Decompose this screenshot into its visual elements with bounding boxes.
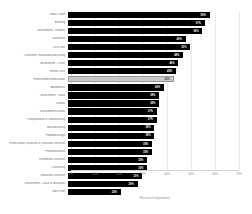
bar-row: Non-Profit22% <box>0 188 252 196</box>
bar-container: 36% <box>68 124 252 132</box>
x-tick-label: 20% <box>116 172 122 176</box>
bar-container: 29% <box>68 180 252 188</box>
bar-value-label: 29% <box>129 182 134 188</box>
bar-row: Health Care45% <box>0 67 252 75</box>
category-label: Professional, Scientific & Technical Ser… <box>0 142 68 145</box>
bar[interactable] <box>68 44 190 50</box>
x-tick-label: 40% <box>164 172 170 176</box>
category-label: Insurance <box>0 37 68 40</box>
bar-container: 57% <box>68 19 252 27</box>
category-label: Health Care <box>0 70 68 73</box>
bar[interactable] <box>68 125 154 131</box>
bar-row: Automotive40% <box>0 83 252 91</box>
category-label: Manufacturing <box>0 126 68 129</box>
bar-value-label: 45% <box>167 69 172 75</box>
bar-container: 36% <box>68 132 252 140</box>
bar[interactable] <box>68 141 152 147</box>
bar-value-label: 38% <box>150 93 155 99</box>
bar-container: 22% <box>68 188 252 196</box>
bar[interactable] <box>68 52 183 58</box>
bar[interactable] <box>68 181 138 187</box>
bar[interactable] <box>68 20 205 26</box>
category-label: Government - Federal <box>0 29 68 32</box>
bar-row: Entertainment/Education44% <box>0 75 252 83</box>
bar-value-label: 57% <box>196 21 201 27</box>
bar-track: 33% <box>68 157 236 163</box>
x-tick-label: 0% <box>69 172 73 176</box>
bar-row: Transportation & Warehousing37% <box>0 116 252 124</box>
bar-value-label: 37% <box>148 109 153 115</box>
bar-row: Utilities38% <box>0 100 252 108</box>
bar-track: 48% <box>68 52 236 58</box>
category-label: Pharmaceutical <box>0 150 68 153</box>
bar[interactable] <box>68 149 152 155</box>
bar-container: 35% <box>68 140 252 148</box>
bar-highlighted[interactable] <box>68 76 174 82</box>
x-tick-label: 70% <box>236 172 242 176</box>
bar-track: 46% <box>68 60 236 66</box>
bar[interactable] <box>68 133 154 139</box>
bar[interactable] <box>68 36 186 42</box>
bar-container: 48% <box>68 51 252 59</box>
bar[interactable] <box>68 100 159 106</box>
category-label: Transportation & Warehousing <box>0 118 68 121</box>
bar[interactable] <box>68 28 202 34</box>
bar[interactable] <box>68 92 159 98</box>
bar-container: 56% <box>68 27 252 35</box>
bar-track: 38% <box>68 100 236 106</box>
bar-container: 37% <box>68 108 252 116</box>
bar-track: 49% <box>68 36 236 42</box>
category-label: Non-Profit <box>0 190 68 193</box>
bar[interactable] <box>68 60 178 66</box>
bar-container: 38% <box>68 100 252 108</box>
bar[interactable] <box>68 84 164 90</box>
bar-track: 44% <box>68 76 236 82</box>
bar-track: 38% <box>68 92 236 98</box>
category-label: Telecommunications <box>0 110 68 113</box>
bar-container: 38% <box>68 91 252 99</box>
bar-value-label: 40% <box>155 85 160 91</box>
bar-track: 57% <box>68 20 236 26</box>
bar-row: Retail Trade59% <box>0 11 252 19</box>
x-tick-label: 60% <box>212 172 218 176</box>
bar-track: 45% <box>68 68 236 74</box>
bar[interactable] <box>68 108 157 114</box>
bar-container: 35% <box>68 148 252 156</box>
bar[interactable] <box>68 12 210 18</box>
bar-row: Telecommunications37% <box>0 108 252 116</box>
bar-value-label: 56% <box>193 29 198 35</box>
bar[interactable] <box>68 68 176 74</box>
bar-row: Government - Other46% <box>0 59 252 67</box>
category-label: Retail Trade <box>0 13 68 16</box>
bar-value-label: 48% <box>174 53 179 59</box>
bar-track: 37% <box>68 108 236 114</box>
x-axis-label: Percent of respondents <box>71 196 239 200</box>
bar[interactable] <box>68 117 157 123</box>
bar-value-label: 44% <box>165 77 170 83</box>
bar-track: 40% <box>68 84 236 90</box>
bar-row: Information Services33% <box>0 156 252 164</box>
bar[interactable] <box>68 157 147 163</box>
category-label: Government - Other <box>0 62 68 65</box>
bar-container: 45% <box>68 67 252 75</box>
category-label: Food/Beverage <box>0 134 68 137</box>
bar-value-label: 49% <box>177 37 182 43</box>
bar-rows: Retail Trade59%Banking57%Government - Fe… <box>0 11 252 196</box>
bar-track: 56% <box>68 28 236 34</box>
bar-track: 29% <box>68 181 236 187</box>
category-label: Government - Local & Municipal <box>0 182 68 185</box>
bar-container: 44% <box>68 75 252 83</box>
bar-row: Insurance49% <box>0 35 252 43</box>
bar-value-label: 59% <box>201 13 206 19</box>
bar-track: 36% <box>68 133 236 139</box>
bar-container: 33% <box>68 156 252 164</box>
bar-container: 49% <box>68 35 252 43</box>
bar-value-label: 35% <box>143 150 148 156</box>
bar-row: Pharmaceutical35% <box>0 148 252 156</box>
bar-row: Food/Beverage36% <box>0 132 252 140</box>
x-tick-label: 30% <box>140 172 146 176</box>
x-axis-ticks: 0%10%20%30%40%50%60%70% <box>71 172 239 180</box>
bar-row: Oil & Gas51% <box>0 43 252 51</box>
category-label: Education Services <box>0 174 68 177</box>
category-label: Entertainment/Education <box>0 78 68 81</box>
